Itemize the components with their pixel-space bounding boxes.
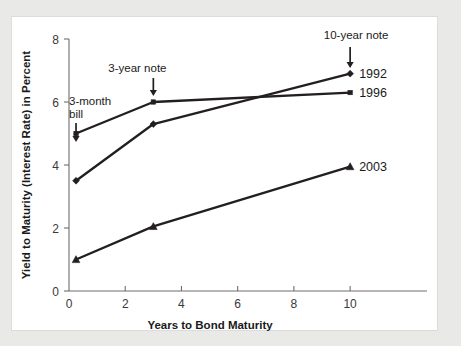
y-tick-label: 6 [52, 96, 59, 110]
y-axis-ticks: 02468 [52, 33, 69, 299]
x-axis-ticks: 0246810 [66, 286, 357, 311]
annotations-group: 3-monthbill3-year note10-year note [69, 29, 388, 142]
series-group [72, 70, 354, 262]
figure-panel: 02468 0246810 Years to Bond Maturity Yie… [12, 17, 437, 330]
annotation-arrow-3-month-bill-head [72, 136, 79, 142]
x-tick-label: 2 [122, 297, 129, 311]
series-end-label-1996: 1996 [359, 86, 387, 100]
yield-curve-chart: 02468 0246810 Years to Bond Maturity Yie… [12, 17, 437, 330]
data-point-1992-10 [347, 70, 354, 77]
series-line-1992 [76, 74, 350, 181]
data-point-1996-10 [348, 90, 352, 94]
series-end-label-1992: 1992 [359, 67, 387, 81]
annotation-3-month-bill-line2: bill [69, 108, 83, 120]
series-end-label-2003: 2003 [359, 160, 387, 174]
series-2003 [72, 163, 354, 263]
data-point-1996-3 [151, 100, 155, 104]
annotation-arrow-10-year-note [347, 47, 354, 68]
chart-canvas: 02468 0246810 Years to Bond Maturity Yie… [12, 17, 437, 330]
annotation-arrow-3-year-note [150, 78, 157, 96]
y-tick-label: 0 [52, 285, 59, 299]
x-tick-label: 10 [343, 297, 357, 311]
series-labels-group: 199219962003 [359, 67, 387, 174]
annotation-arrow-10-year-note-head [347, 62, 354, 68]
y-tick-label: 2 [52, 222, 59, 236]
x-tick-label: 6 [234, 297, 241, 311]
annotation-3-year-note-label: 3-year note [108, 62, 166, 74]
x-axis-title: Years to Bond Maturity [147, 319, 273, 331]
series-1996 [74, 90, 353, 135]
x-tick-label: 8 [291, 297, 298, 311]
annotation-3-month-bill-line1: 3-month [69, 95, 111, 107]
y-tick-label: 4 [52, 159, 59, 173]
annotation-10-year-note-label: 10-year note [324, 29, 389, 41]
y-tick-label: 8 [52, 33, 59, 47]
series-line-1996 [76, 93, 350, 134]
x-tick-label: 4 [178, 297, 185, 311]
y-axis-title: Yield to Maturity (Interest Rate) in Per… [20, 51, 32, 280]
series-1992 [73, 70, 354, 184]
annotation-arrow-3-year-note-head [150, 90, 157, 96]
x-tick-label: 0 [66, 297, 73, 311]
series-line-2003 [76, 167, 350, 260]
